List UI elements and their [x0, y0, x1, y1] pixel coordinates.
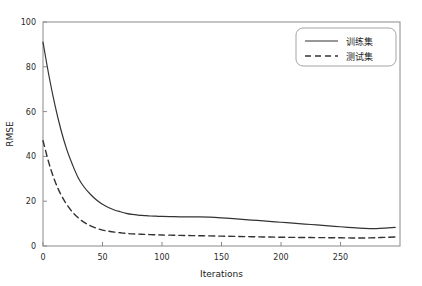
chart-legend: 训练集测试集	[296, 28, 396, 66]
y-tick-label: 20	[26, 197, 36, 206]
y-tick-label: 80	[26, 63, 36, 72]
y-axis-label: RMSE	[5, 121, 15, 147]
x-tick-label: 50	[97, 253, 107, 262]
chart-figure: 020406080100 050100150200250 Iterations …	[0, 0, 422, 286]
legend-label-train: 训练集	[346, 36, 373, 47]
x-tick-label: 200	[273, 253, 288, 262]
x-tick-label: 0	[40, 253, 45, 262]
legend-label-test: 测试集	[346, 51, 373, 62]
y-tick-label: 60	[26, 108, 36, 117]
y-tick-label: 0	[31, 242, 36, 251]
rmse-convergence-chart: 020406080100 050100150200250 Iterations …	[0, 0, 422, 286]
x-tick-label: 250	[333, 253, 348, 262]
x-tick-label: 100	[154, 253, 169, 262]
y-tick-label: 100	[21, 18, 36, 27]
y-tick-label: 40	[26, 152, 36, 161]
x-axis-label: Iterations	[200, 269, 243, 279]
x-tick-label: 150	[214, 253, 229, 262]
